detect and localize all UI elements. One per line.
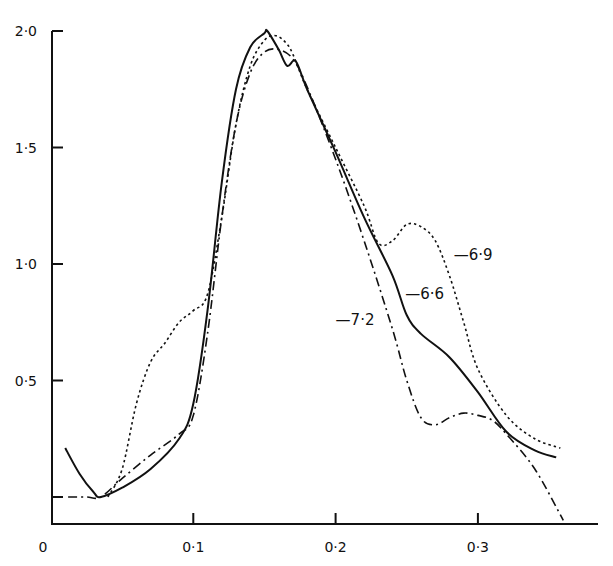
chart-axes <box>51 31 598 524</box>
series-label: —6·9 <box>454 246 493 264</box>
series-labels: —6·6—6·9—7·2 <box>336 246 493 329</box>
series-line-dash-dot <box>68 49 563 520</box>
y-tick-label: 1·0 <box>15 256 37 272</box>
chart-series <box>65 30 563 521</box>
x-tick-label: 0·1 <box>182 539 204 555</box>
x-tick-label: 0·3 <box>467 539 489 555</box>
y-tick-label: 2·0 <box>15 23 37 39</box>
line-chart: 0·51·01·52·000·10·20·3 —6·6—6·9—7·2 <box>0 0 613 566</box>
series-line-dotted <box>108 36 561 497</box>
series-label: —7·2 <box>336 311 375 329</box>
y-tick-label: 1·5 <box>15 140 37 156</box>
x-tick-label: 0·2 <box>324 539 346 555</box>
y-tick-label: 0·5 <box>15 373 37 389</box>
x-tick-label: 0 <box>39 539 48 555</box>
series-label: —6·6 <box>405 285 444 303</box>
